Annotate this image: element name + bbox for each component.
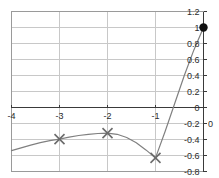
x-tick-label-4: 0 [208,119,213,129]
marker-filled-dot-3 [199,23,207,31]
chart-plot: 1.210.80.60.40.20-0.2-0.4-0.6-0.8 -4-3-2… [0,0,219,178]
x-tick-label-3: -1 [151,111,159,121]
y-tick-label-10: -0.8 [184,167,200,177]
chart-container: 1.210.80.60.40.20-0.2-0.4-0.6-0.8 -4-3-2… [0,0,219,178]
x-tick-label-1: -3 [55,111,63,121]
x-tick-label-0: -4 [7,111,15,121]
y-tick-label-3: 0.6 [187,55,200,65]
x-tick-label-2: -2 [103,111,111,121]
y-tick-label-8: -0.4 [184,135,200,145]
y-tick-label-5: 0.2 [187,87,200,97]
y-tick-label-1: 1 [194,23,199,33]
y-tick-label-9: -0.6 [184,151,200,161]
y-tick-label-0: 1.2 [187,7,200,17]
y-tick-label-7: -0.2 [184,119,200,129]
y-tick-label-2: 0.8 [187,39,200,49]
y-tick-label-4: 0.4 [187,71,200,81]
y-tick-label-6: 0 [194,103,199,113]
x-axis-tick-labels: -4-3-2-10 [7,111,213,129]
y-axis-tick-labels: 1.210.80.60.40.20-0.2-0.4-0.6-0.8 [184,7,200,177]
